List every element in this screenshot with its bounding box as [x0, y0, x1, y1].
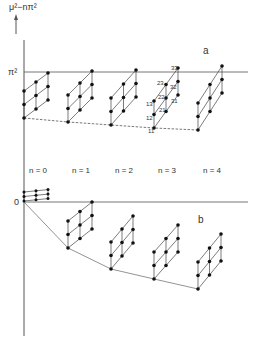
- point-label-11: 11: [148, 128, 155, 134]
- lattice-edge: [24, 191, 36, 192]
- lattice-edge: [80, 202, 92, 212]
- level-point-12: [152, 113, 156, 117]
- level-point-33: [219, 232, 223, 236]
- level-point-11: [66, 120, 70, 124]
- lattice-edge: [198, 262, 210, 276]
- level-point-32: [220, 78, 224, 82]
- level-point-13: [66, 93, 70, 97]
- lattice-edge: [111, 84, 124, 98]
- level-point-21: [208, 273, 212, 277]
- n-label-0: n = 0: [29, 166, 48, 175]
- lattice-edge: [154, 239, 166, 253]
- lattice-edge: [80, 71, 92, 83]
- level-point-11: [196, 128, 200, 132]
- lattices: [22, 64, 224, 291]
- lattice-edge: [111, 98, 124, 112]
- lattice-edge: [80, 85, 92, 97]
- lattice-edge: [111, 111, 124, 125]
- tick-pi-squared: π²: [8, 67, 17, 77]
- lattice-edge: [122, 243, 133, 256]
- level-point-31: [220, 91, 224, 95]
- lattice-edge: [154, 266, 166, 280]
- level-point-33: [47, 188, 50, 191]
- point-label-12: 12: [146, 115, 153, 121]
- level-point-12: [23, 195, 26, 198]
- level-point-13: [196, 260, 200, 264]
- lattice-a-n2: [109, 68, 138, 127]
- level-point-13: [196, 101, 200, 105]
- lattice-edge: [210, 234, 222, 248]
- level-point-22: [122, 96, 126, 100]
- level-point-12: [109, 254, 113, 258]
- lattice-edge: [68, 110, 80, 122]
- level-point-31: [131, 241, 135, 245]
- lattice-edge: [68, 225, 80, 235]
- level-point-11: [23, 200, 26, 203]
- lattice-edge: [80, 229, 92, 239]
- level-point-32: [47, 193, 50, 196]
- level-point-22: [120, 241, 124, 245]
- lattice-edge: [124, 97, 137, 111]
- level-point-12: [66, 233, 70, 237]
- point-label-31: 31: [171, 98, 178, 104]
- level-point-32: [131, 228, 135, 232]
- lattice-edge: [68, 83, 80, 95]
- level-point-12: [22, 103, 26, 107]
- lattice-edge: [80, 98, 92, 110]
- level-point-12: [152, 264, 156, 268]
- lattice-edge: [198, 275, 210, 289]
- level-point-11: [109, 267, 113, 271]
- level-point-31: [90, 96, 94, 100]
- lattice-edge: [68, 212, 80, 222]
- lattice-edge: [122, 230, 133, 243]
- lattice-edge: [36, 194, 48, 195]
- level-point-13: [152, 250, 156, 254]
- level-point-33: [90, 69, 94, 73]
- level-point-23: [122, 82, 126, 86]
- lattice-edge: [24, 96, 36, 105]
- level-point-13: [109, 240, 113, 244]
- lattice-edge: [154, 112, 166, 129]
- level-point-23: [208, 246, 212, 250]
- up-arrow-icon: [14, 14, 18, 34]
- panel-b-label: b: [198, 214, 204, 225]
- point-label-33: 33: [171, 65, 178, 71]
- level-point-22: [208, 260, 212, 264]
- lattice-b-n4: [196, 232, 223, 291]
- panel-a-label: a: [203, 45, 209, 56]
- lattice-edge: [24, 109, 36, 118]
- point-label-21: 21: [159, 107, 166, 113]
- level-point-21: [34, 107, 38, 111]
- lattice-edge: [36, 100, 48, 109]
- level-point-33: [220, 64, 224, 68]
- lattice-a-n4: [196, 64, 224, 132]
- lattice-edge: [198, 248, 210, 262]
- level-point-23: [35, 189, 38, 192]
- level-point-12: [196, 274, 200, 278]
- level-point-33: [131, 214, 135, 218]
- level-point-11: [109, 123, 113, 127]
- level-point-32: [90, 214, 94, 218]
- level-point-21: [208, 110, 212, 114]
- level-point-22: [78, 95, 82, 99]
- level-point-11: [66, 246, 70, 250]
- lattice-edge: [210, 248, 222, 262]
- level-point-32: [90, 83, 94, 87]
- level-point-21: [164, 264, 168, 268]
- level-point-21: [120, 254, 124, 258]
- lattice-edge: [68, 97, 80, 109]
- level-point-32: [134, 82, 138, 86]
- lattice-edge: [124, 84, 137, 98]
- level-point-33: [46, 71, 50, 75]
- level-point-22: [164, 250, 168, 254]
- n-label-3: n = 3: [158, 166, 177, 175]
- lattice-a-n1: [66, 69, 94, 124]
- level-point-12: [109, 110, 113, 114]
- level-point-32: [176, 237, 180, 241]
- energy-level-diagram: μ²−nπ² π² 0 a b n = 0 n = 1 n = 2 n = 3 …: [0, 0, 259, 346]
- level-point-23: [164, 83, 168, 87]
- lattice-edge: [36, 199, 48, 200]
- level-point-13: [109, 96, 113, 100]
- level-point-31: [47, 197, 50, 200]
- level-point-22: [78, 223, 82, 227]
